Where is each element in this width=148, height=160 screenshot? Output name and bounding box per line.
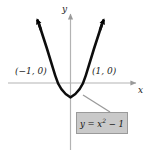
plot-canvas (0, 0, 148, 160)
callout-leader-line (83, 95, 110, 112)
parabola-figure: (−1, 0) (1, 0) y x y = x2 − 1 (0, 0, 148, 160)
curve-arrow-right (100, 20, 104, 31)
y-axis-label: y (62, 4, 67, 14)
equation-callout-text: y = x2 − 1 (80, 117, 124, 129)
x-axis-label: x (138, 85, 143, 95)
equation-rhs: − 1 (106, 119, 124, 129)
equation-lhs: y = x (80, 119, 102, 129)
curve-arrow-left (37, 20, 41, 31)
right-intercept-label: (1, 0) (92, 66, 116, 76)
equation-callout-box: y = x2 − 1 (76, 112, 128, 134)
left-intercept-label: (−1, 0) (15, 66, 47, 76)
